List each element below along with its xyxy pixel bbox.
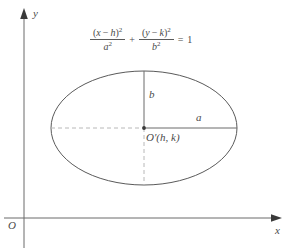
equation-term-1: (x − h)2 a2 [90,27,125,53]
ellipse-center-point [142,126,146,130]
semi-minor-axis-label: b [149,89,155,100]
equation-rhs: 1 [187,35,192,45]
plus-operator: + [129,35,135,45]
variable-y: y [145,27,149,38]
equation-term-2-numerator: (y − k)2 [139,27,174,39]
exponent-2: 2 [167,26,171,34]
equals-operator: = [178,35,184,45]
y-axis-label: y [33,8,38,19]
equation-term-2-denominator: b2 [139,39,174,52]
semi-major-axis-label: a [196,112,202,123]
solid-axis-lines [144,71,237,128]
minus-sign: − [152,27,158,38]
exponent-2: 2 [157,40,161,48]
ellipse-equation: (x − h)2 a2 + (y − k)2 b2 = 1 [88,27,194,53]
equation-term-2: (y − k)2 b2 [139,27,174,53]
x-axis-label: x [275,225,280,236]
dashed-axis-lines [51,128,144,185]
equation-term-1-numerator: (x − h)2 [90,27,125,39]
exponent-2: 2 [119,26,123,34]
y-axis-arrowhead [20,8,28,19]
x-axis-arrowhead [271,214,282,222]
variable-x: x [96,27,100,38]
minus-sign: − [103,27,109,38]
exponent-2: 2 [108,40,112,48]
equation-term-1-denominator: a2 [90,39,125,52]
origin-label: O [8,220,16,231]
ellipse-center-label: O′(h, k) [146,132,180,143]
